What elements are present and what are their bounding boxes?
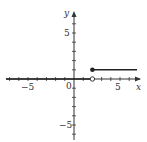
closed-endpoint-marker <box>90 68 95 73</box>
y-tick-label-5: 5 <box>64 28 70 38</box>
step-function-graph: y x 0 −5 5 5 −5 <box>0 0 147 142</box>
y-axis-arrow-icon <box>72 11 77 17</box>
x-axis-arrow-icon <box>135 77 141 82</box>
origin-label: 0 <box>66 81 72 91</box>
open-endpoint-marker <box>90 77 94 81</box>
y-axis-label: y <box>63 8 70 18</box>
x-tick-label-neg5: −5 <box>21 82 35 92</box>
x-tick-label-5: 5 <box>115 82 121 92</box>
x-axis-label: x <box>136 82 141 92</box>
y-tick-label-neg5: −5 <box>59 120 73 130</box>
